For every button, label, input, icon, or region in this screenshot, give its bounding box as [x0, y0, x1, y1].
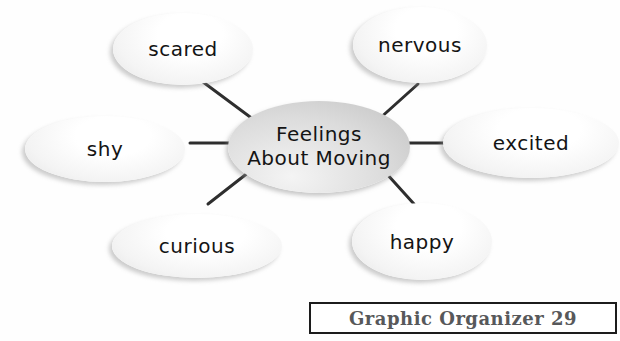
node-center-feelings-about-moving: Feelings About Moving	[228, 101, 410, 193]
node-nervous: nervous	[353, 7, 487, 83]
footer-title-label: Graphic Organizer 29	[349, 308, 577, 329]
node-scared-label: scared	[148, 37, 217, 61]
node-happy: happy	[352, 203, 492, 280]
node-scared: scared	[113, 13, 253, 85]
node-curious-label: curious	[159, 234, 235, 258]
node-excited: excited	[443, 108, 619, 178]
connector-scared-center	[203, 82, 257, 122]
node-curious: curious	[112, 214, 282, 278]
connector-center-happy	[386, 173, 414, 204]
node-excited-label: excited	[493, 131, 569, 155]
node-happy-label: happy	[390, 230, 455, 254]
connector-center-curious	[208, 172, 249, 204]
node-shy-label: shy	[87, 137, 123, 161]
footer-title-box: Graphic Organizer 29	[309, 302, 617, 334]
node-nervous-label: nervous	[378, 33, 462, 57]
center-label-line1: Feelings	[276, 123, 362, 147]
center-label-line2: About Moving	[247, 147, 391, 171]
node-shy: shy	[25, 116, 185, 182]
graphic-organizer-page: scared nervous shy excited curious happy…	[0, 0, 620, 341]
